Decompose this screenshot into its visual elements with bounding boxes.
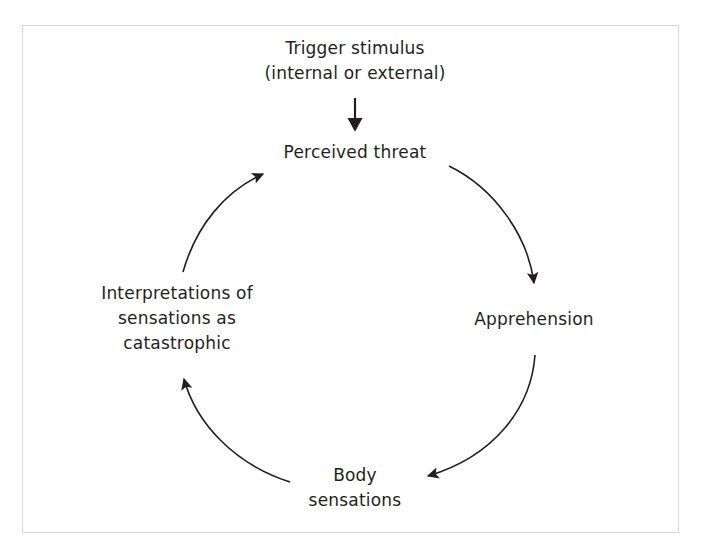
node-trigger-stimulus: Trigger stimulus (internal or external) (264, 36, 445, 86)
node-body-sensations: Body sensations (309, 463, 402, 513)
arrow-apprehension-to-body (428, 355, 535, 476)
diagram-canvas: Trigger stimulus (internal or external) … (0, 0, 702, 555)
node-interpretations-catastrophic: Interpretations of sensations as catastr… (101, 281, 253, 356)
node-apprehension: Apprehension (474, 307, 593, 332)
arrow-threat-to-apprehension (449, 166, 534, 283)
arrow-interpretations-to-threat (183, 174, 263, 272)
arrow-body-to-interpretations (184, 379, 290, 482)
node-perceived-threat: Perceived threat (284, 140, 427, 165)
